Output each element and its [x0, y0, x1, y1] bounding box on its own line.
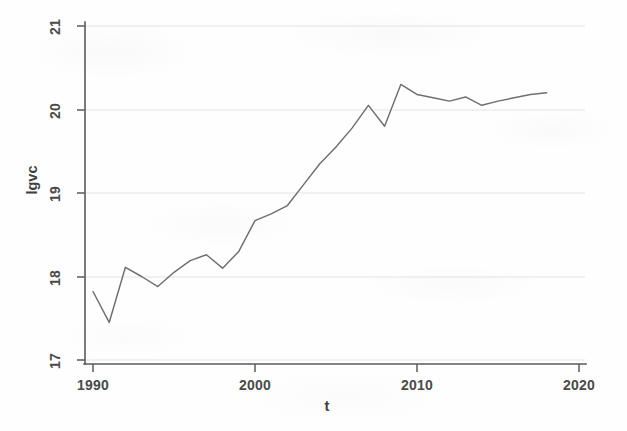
x-axis-title: t [305, 398, 349, 414]
y-tick-label-19: 19 [47, 183, 63, 205]
chart-figure: 17 18 19 20 21 lgvc 1990 2000 2010 2020 … [0, 0, 627, 431]
y-tick-label-20: 20 [47, 100, 63, 122]
x-tick-marks [93, 364, 579, 372]
y-axis-title: lgvc [24, 157, 40, 203]
y-tick-label-17: 17 [47, 350, 63, 372]
y-tick-marks [77, 26, 85, 360]
gridlines [85, 26, 585, 360]
x-tick-label-1990: 1990 [67, 377, 119, 393]
x-tick-label-2020: 2020 [553, 377, 605, 393]
x-tick-label-2000: 2000 [229, 377, 281, 393]
y-tick-label-18: 18 [47, 267, 63, 289]
line-chart-canvas [0, 0, 627, 431]
x-tick-label-2010: 2010 [391, 377, 443, 393]
data-series-lgvc [93, 84, 547, 322]
y-tick-label-21: 21 [47, 16, 63, 38]
